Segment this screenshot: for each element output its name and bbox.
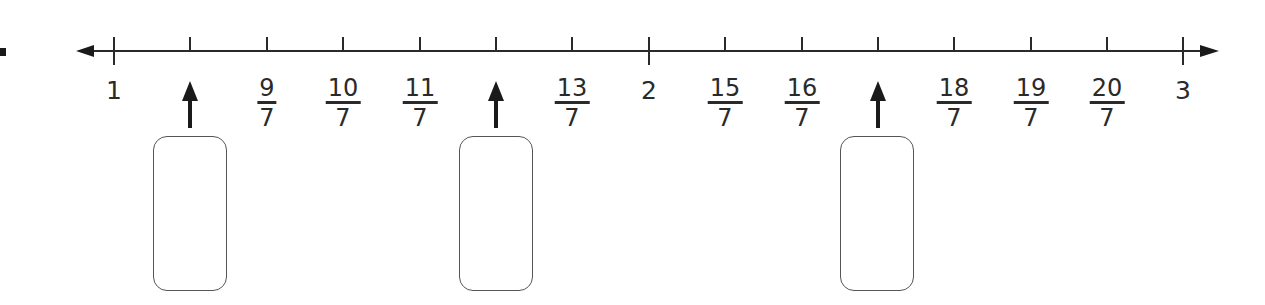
tick-label-13-7: 137 <box>555 76 590 130</box>
tick-label-15-7: 157 <box>708 76 743 130</box>
tick-label-16-7: 167 <box>785 76 820 130</box>
right-arrow-icon <box>1200 45 1219 57</box>
tick-label-18-7: 187 <box>937 76 972 130</box>
tick-label-1: 1 <box>106 78 122 103</box>
pointer-arrow-icon <box>182 81 198 128</box>
tick-label-20-7: 207 <box>1090 76 1125 130</box>
pointer-arrow-icon <box>870 81 886 128</box>
answer-box-3[interactable] <box>840 136 914 291</box>
tick-label-10-7: 107 <box>326 76 361 130</box>
tick-label-2: 2 <box>641 78 657 103</box>
pointer-arrow-icon <box>488 81 504 128</box>
answer-box-2[interactable] <box>459 136 533 291</box>
answer-box-1[interactable] <box>153 136 227 291</box>
tick-label-9-7: 97 <box>257 76 276 130</box>
left-arrow-icon <box>76 45 94 57</box>
tick-label-3: 3 <box>1175 78 1191 103</box>
tick-label-11-7: 117 <box>403 76 438 130</box>
tick-label-19-7: 197 <box>1014 76 1049 130</box>
number-line-exercise: 1 2 3 97 107 117 137 157 167 187 197 207 <box>0 0 1265 305</box>
